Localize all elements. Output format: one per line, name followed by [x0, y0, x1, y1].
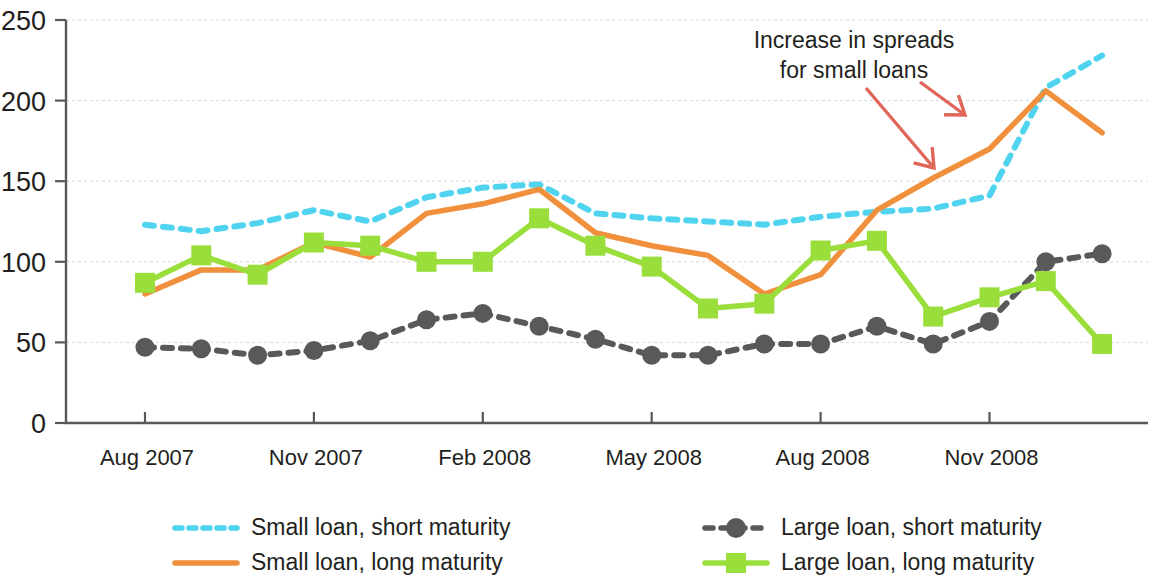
legend-swatch-marker-3	[726, 553, 746, 573]
annotation-arrow-lower	[866, 88, 934, 168]
series-marker-3	[980, 287, 1000, 307]
series-marker-3	[585, 236, 605, 256]
x-tick-label: May 2008	[605, 445, 702, 470]
y-axis-tick-labels: 250200150100500	[1, 6, 46, 439]
series-marker-2	[755, 335, 774, 354]
y-tick-label: 50	[16, 328, 46, 358]
series-marker-2	[980, 312, 999, 331]
series-line-2	[145, 254, 1102, 356]
series-marker-3	[360, 236, 380, 256]
legend-item-2[interactable]: Small loan, long maturity	[175, 549, 503, 575]
legend-item-3[interactable]: Large loan, long maturity	[705, 549, 1035, 575]
legend-label-1: Large loan, short maturity	[781, 514, 1042, 540]
series-marker-2	[586, 330, 605, 349]
legend-label-2: Small loan, long maturity	[251, 549, 503, 575]
series-marker-2	[473, 304, 492, 323]
series-marker-2	[1036, 252, 1055, 271]
series-marker-3	[1036, 271, 1056, 291]
series-marker-3	[1092, 334, 1112, 354]
series-marker-3	[248, 265, 268, 285]
series-marker-3	[811, 241, 831, 261]
x-tick-label: Aug 2008	[775, 445, 869, 470]
chart-container: 250200150100500 Aug 2007Nov 2007Feb 2008…	[0, 0, 1152, 583]
x-tick-label: Nov 2008	[944, 445, 1038, 470]
series-marker-2	[699, 346, 718, 365]
axes-group	[55, 20, 1148, 423]
series-marker-2	[248, 346, 267, 365]
series-marker-3	[304, 233, 324, 253]
x-tick-label: Nov 2007	[269, 445, 363, 470]
legend-item-0[interactable]: Small loan, short maturity	[175, 514, 511, 540]
legend-label-3: Large loan, long maturity	[781, 549, 1035, 575]
data-series-group	[135, 56, 1112, 365]
series-marker-2	[867, 317, 886, 336]
annotation-arrow-lower-shaft	[866, 88, 934, 168]
series-marker-3	[529, 208, 549, 228]
axis-lines	[66, 20, 1148, 423]
y-tick-label: 150	[1, 167, 46, 197]
series-marker-2	[417, 310, 436, 329]
annotation-line-1: Increase in spreads	[754, 27, 955, 53]
x-tick-label: Feb 2008	[438, 445, 531, 470]
series-marker-3	[473, 252, 493, 272]
x-axis-tick-labels: Aug 2007Nov 2007Feb 2008May 2008Aug 2008…	[100, 445, 1039, 470]
annotation-group: Increase in spreadsfor small loans	[754, 27, 965, 168]
series-marker-3	[923, 307, 943, 327]
series-marker-2	[136, 338, 155, 357]
series-marker-2	[304, 341, 323, 360]
series-marker-2	[1093, 244, 1112, 263]
y-tick-label: 250	[1, 6, 46, 36]
y-tick-label: 0	[31, 409, 46, 439]
series-line-1	[145, 91, 1102, 294]
series-marker-2	[361, 331, 380, 350]
chart-legend: Small loan, short maturityLarge loan, sh…	[175, 514, 1042, 575]
annotation-arrow-upper	[920, 82, 965, 115]
series-marker-2	[924, 335, 943, 354]
series-marker-3	[698, 299, 718, 319]
series-marker-2	[192, 339, 211, 358]
series-marker-2	[530, 317, 549, 336]
series-line-0	[145, 56, 1102, 232]
annotation-line-2: for small loans	[780, 57, 928, 83]
legend-item-1[interactable]: Large loan, short maturity	[705, 514, 1042, 540]
series-marker-3	[135, 273, 155, 293]
series-marker-3	[754, 294, 774, 314]
series-marker-2	[642, 346, 661, 365]
series-marker-2	[811, 335, 830, 354]
series-marker-3	[867, 231, 887, 251]
series-marker-3	[417, 252, 437, 272]
line-chart: 250200150100500 Aug 2007Nov 2007Feb 2008…	[0, 0, 1152, 583]
x-tick-label: Aug 2007	[100, 445, 194, 470]
y-tick-label: 200	[1, 87, 46, 117]
series-marker-3	[191, 245, 211, 265]
y-tick-label: 100	[1, 248, 46, 278]
legend-label-0: Small loan, short maturity	[251, 514, 511, 540]
series-marker-3	[642, 257, 662, 277]
legend-swatch-marker-1	[726, 518, 746, 538]
